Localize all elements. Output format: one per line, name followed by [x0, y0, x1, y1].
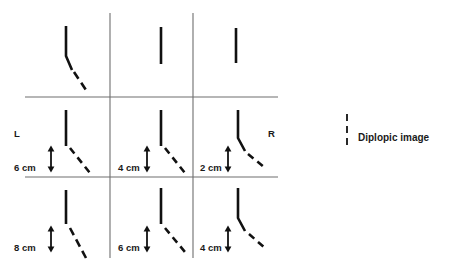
diplopic-image-line-r2c2	[165, 148, 185, 173]
cell-r3c1	[48, 190, 86, 258]
side-label-right: R	[268, 129, 275, 139]
separation-label-r2c1: 6 cm	[14, 163, 36, 173]
side-label-left: L	[14, 129, 20, 139]
legend-label: Diplopic image	[358, 133, 429, 143]
separation-arrow-r2c2	[144, 146, 151, 173]
diplopic-image-line-r1c1	[74, 72, 88, 93]
diplopic-image-line-r3c2	[165, 228, 185, 252]
cell-r3c3	[225, 188, 265, 253]
true-image-line-r1c1	[66, 26, 72, 70]
cell-r2c3	[225, 110, 264, 173]
diplopic-image-line-r3c3	[249, 234, 265, 248]
separation-label-r2c3: 2 cm	[200, 163, 222, 173]
separation-arrow-r3c3	[225, 226, 232, 253]
cell-r2c1	[48, 110, 90, 173]
cell-r1c1	[66, 26, 88, 93]
separation-label-r3c1: 8 cm	[14, 243, 36, 253]
true-image-line-r3c3	[238, 188, 245, 231]
separation-label-r3c2: 6 cm	[118, 243, 140, 253]
separation-label-r2c2: 4 cm	[118, 163, 140, 173]
diplopic-image-line-r3c1	[70, 228, 86, 258]
true-image-line-r2c3	[238, 110, 245, 151]
cell-r3c2	[144, 188, 185, 253]
diplopic-image-line-r2c1	[70, 148, 90, 173]
separation-arrow-r3c2	[144, 226, 151, 253]
cell-r2c2	[144, 110, 185, 173]
diplopic-image-line-r2c3	[248, 154, 264, 167]
separation-arrow-r2c1	[48, 146, 55, 173]
separation-arrow-r2c3	[225, 146, 232, 173]
diplopia-chart-figure: L R 6 cm 4 cm 2 cm 8 cm 6 cm 4 cm Diplop…	[0, 0, 450, 272]
separation-label-r3c3: 4 cm	[200, 243, 222, 253]
separation-arrow-r3c1	[48, 226, 55, 253]
